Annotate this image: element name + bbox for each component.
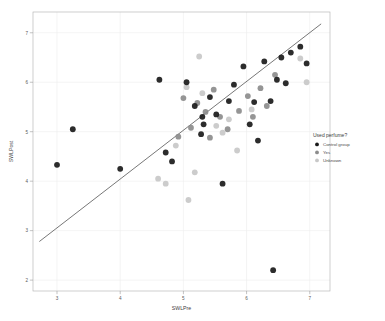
axis-ticks (30, 33, 310, 294)
plot-frame (33, 12, 330, 291)
data-point (236, 108, 242, 114)
data-point (213, 123, 219, 129)
data-point (283, 80, 289, 86)
data-points (54, 44, 309, 273)
data-point (278, 55, 284, 61)
x-tick-label: 4 (119, 296, 122, 301)
data-point (255, 138, 261, 144)
legend-item-unknown[interactable]: Unknown (315, 158, 342, 163)
data-point (274, 77, 280, 83)
data-point (220, 130, 226, 136)
data-point (249, 107, 255, 113)
x-tick-label: 3 (56, 296, 59, 301)
y-tick-label: 5 (25, 130, 28, 135)
data-point (192, 169, 198, 175)
data-point (261, 59, 267, 65)
x-tick-label: 6 (245, 296, 248, 301)
data-point (175, 134, 181, 140)
legend-item-label: Unknown (323, 158, 342, 163)
legend-item-yes[interactable]: Yes (315, 150, 331, 155)
series-unknown (155, 54, 309, 203)
data-point (201, 121, 207, 127)
data-point (264, 103, 270, 109)
y-tick-label: 4 (25, 179, 28, 184)
y-tick-label: 2 (25, 278, 28, 283)
data-point (203, 109, 209, 115)
series-control-group (54, 44, 309, 273)
data-point (213, 111, 219, 117)
x-tick-label: 7 (308, 296, 311, 301)
data-point (211, 87, 217, 93)
data-point (207, 135, 213, 141)
legend-title: Used perfume? (313, 132, 347, 138)
x-axis-label: SWLPre (172, 305, 191, 311)
x-tick-label: 5 (182, 296, 185, 301)
legend-item-control-group[interactable]: Control group (315, 142, 350, 147)
data-point (225, 126, 231, 132)
data-point (196, 54, 202, 60)
data-point (247, 121, 253, 127)
data-point (251, 99, 257, 105)
data-point (163, 150, 169, 156)
axis-tick-labels: 34567234567 (25, 31, 311, 301)
data-point (184, 79, 190, 85)
data-point (304, 79, 310, 85)
data-point (304, 61, 310, 67)
y-tick-label: 6 (25, 80, 28, 85)
data-point (272, 72, 278, 78)
scatter-plot-figure: 34567234567 SWLPre SWLPost Used perfume?… (0, 0, 385, 321)
data-point (192, 103, 198, 109)
data-point (207, 94, 213, 100)
data-point (220, 181, 226, 187)
data-point (173, 143, 179, 149)
data-point (70, 126, 76, 132)
data-point (268, 98, 274, 104)
legend-entries: Control groupYesUnknown (315, 142, 350, 163)
data-point (297, 56, 303, 62)
data-point (54, 162, 60, 168)
data-point (155, 176, 161, 182)
data-point (250, 114, 256, 120)
gridlines (33, 12, 330, 291)
data-point (169, 158, 175, 164)
legend: Used perfume? Control groupYesUnknown (313, 132, 350, 163)
data-point (231, 82, 237, 88)
data-point (180, 95, 186, 101)
data-point (241, 64, 247, 70)
data-point (163, 181, 169, 187)
data-point (156, 77, 162, 83)
legend-item-label: Control group (323, 142, 350, 147)
data-point (288, 50, 294, 56)
data-point (258, 85, 264, 91)
data-point (188, 125, 194, 131)
data-point (184, 84, 190, 90)
y-tick-label: 7 (25, 31, 28, 36)
legend-item-label: Yes (323, 150, 331, 155)
data-point (226, 116, 232, 122)
data-point (245, 93, 251, 99)
data-point (270, 267, 276, 273)
data-point (198, 131, 204, 137)
y-axis-label: SWLPost (8, 140, 14, 162)
y-tick-label: 3 (25, 228, 28, 233)
legend-marker-icon (315, 143, 319, 147)
data-point (117, 166, 123, 172)
data-point (297, 44, 303, 50)
data-point (186, 197, 192, 203)
legend-marker-icon (315, 159, 319, 163)
data-point (226, 98, 232, 104)
legend-marker-icon (315, 151, 319, 155)
plot-canvas: 34567234567 SWLPre SWLPost Used perfume?… (0, 0, 385, 321)
data-point (199, 90, 205, 96)
data-point (234, 148, 240, 154)
data-point (199, 114, 205, 120)
